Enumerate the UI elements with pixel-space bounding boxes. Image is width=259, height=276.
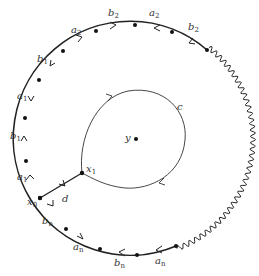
point-x0 xyxy=(38,196,42,200)
label-c: c xyxy=(177,102,183,112)
segment-d xyxy=(40,173,82,198)
label-a2-top: a2 xyxy=(149,8,159,20)
label-b1-upper-left: b1 xyxy=(37,54,48,66)
label-an-bottom-left: an xyxy=(73,242,83,254)
label-an-bottom-right: an xyxy=(155,256,165,268)
segment-d-arrow xyxy=(59,180,65,186)
label-d: d xyxy=(62,194,68,204)
label-a2-upper-left: a2 xyxy=(71,25,81,37)
label-a1-left-lower: a1 xyxy=(17,172,27,184)
label-bn-bottom: bn xyxy=(114,258,125,270)
label-b1-left: b1 xyxy=(10,131,21,143)
label-b2-top-left: b2 xyxy=(108,8,119,20)
outer-boundary-wavy-arc xyxy=(177,47,256,250)
label-y: y xyxy=(125,133,131,143)
diagram-canvas: b2 a2 b2 a2 b1 a1 b1 a1 bn an bn an x0 x… xyxy=(0,0,259,276)
label-x1: x1 xyxy=(86,164,96,176)
point-y xyxy=(134,137,138,141)
label-a1-left-upper: a1 xyxy=(17,91,27,103)
loop-c xyxy=(81,90,185,188)
label-bn-lower-left: bn xyxy=(42,216,53,228)
label-x0: x0 xyxy=(27,197,37,209)
point-x1 xyxy=(80,171,84,175)
label-b2-top-right: b2 xyxy=(188,22,199,34)
loop-c-arrow-top xyxy=(106,94,112,101)
